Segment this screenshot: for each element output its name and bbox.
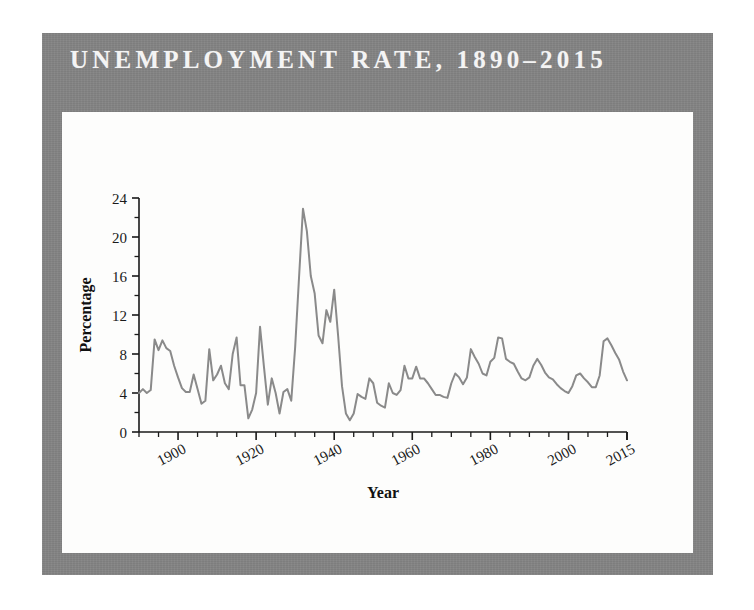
x-tick-label: 1980	[467, 441, 501, 469]
chart-title: UNEMPLOYMENT RATE, 1890–2015	[70, 46, 607, 74]
axis-spines	[139, 198, 627, 432]
y-axis-ticks: 04812162024	[112, 191, 139, 441]
y-tick-label: 20	[112, 230, 127, 246]
x-tick-label: 1900	[154, 441, 188, 469]
y-tick-label: 12	[112, 308, 127, 324]
x-tick-label: 2015	[603, 441, 637, 469]
data-line-series-0	[139, 209, 627, 421]
x-tick-label: 1940	[311, 441, 345, 469]
x-tick-label: 2000	[545, 441, 579, 469]
line-chart-svg: 048121620241900192019401960198020002015Y…	[62, 112, 693, 553]
x-tick-label: 1920	[233, 441, 267, 469]
y-tick-label: 4	[120, 386, 128, 402]
x-axis-ticks: 1900192019401960198020002015	[139, 432, 637, 469]
plot-panel: 048121620241900192019401960198020002015Y…	[62, 112, 693, 553]
y-tick-label: 8	[120, 347, 128, 363]
y-tick-label: 24	[112, 191, 128, 207]
y-axis-title: Percentage	[77, 277, 95, 352]
y-tick-label: 0	[120, 425, 128, 441]
figure-root: UNEMPLOYMENT RATE, 1890–2015 04812162024…	[0, 0, 754, 610]
x-tick-label: 1960	[389, 441, 423, 469]
x-axis-title: Year	[367, 484, 399, 501]
y-tick-label: 16	[112, 269, 128, 285]
